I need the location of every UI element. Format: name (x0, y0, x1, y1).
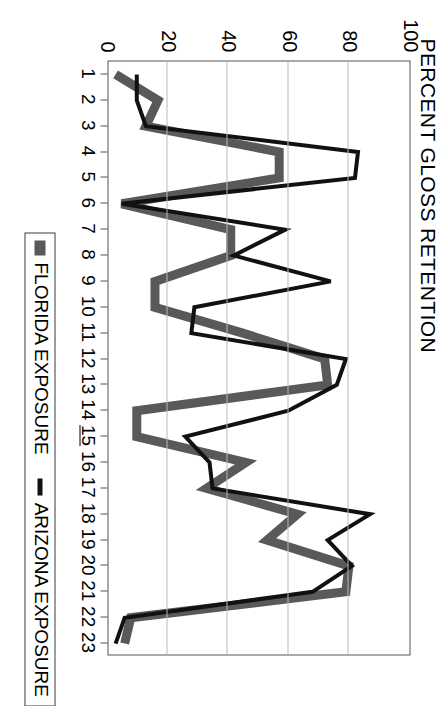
category-tick (100, 254, 107, 255)
series-line-florida (115, 74, 348, 643)
category-tick (100, 642, 107, 643)
value-axis-label: 60 (279, 8, 299, 52)
value-axis-label: 100 (400, 8, 420, 52)
category-tick (100, 358, 107, 359)
value-axis-label: 20 (158, 8, 178, 52)
category-tick (100, 513, 107, 514)
category-tick (100, 487, 107, 488)
florida-legend-swatch-icon (35, 240, 46, 255)
chart-legend: FLORIDA EXPOSURE ARIZONA EXPOSURE (24, 232, 55, 706)
gridline (226, 61, 227, 654)
category-tick (100, 280, 107, 281)
category-tick (100, 202, 107, 203)
value-axis-label: 0 (97, 8, 117, 52)
category-tick (100, 176, 107, 177)
category-tick (100, 228, 107, 229)
category-tick (100, 539, 107, 540)
category-tick (100, 99, 107, 100)
chart-title: PERCENT GLOSS RETENTION (415, 38, 439, 353)
category-tick (100, 616, 107, 617)
series-canvas (106, 61, 409, 656)
value-axis-label: 80 (339, 8, 359, 52)
category-tick (100, 409, 107, 410)
value-axis-label: 40 (218, 8, 238, 52)
category-tick (100, 73, 107, 74)
plot-area (107, 60, 410, 655)
category-tick (100, 125, 107, 126)
category-tick (100, 306, 107, 307)
category-tick (100, 383, 107, 384)
category-tick (100, 461, 107, 462)
arizona-legend-swatch-icon (38, 478, 43, 495)
category-tick (100, 590, 107, 591)
category-axis-label: 23 (78, 627, 97, 657)
category-tick (100, 151, 107, 152)
category-tick (100, 564, 107, 565)
category-tick (100, 435, 107, 436)
gridline (166, 61, 167, 654)
gridline (347, 61, 348, 654)
category-tick (100, 332, 107, 333)
arizona-legend-label: ARIZONA EXPOSURE (29, 502, 51, 696)
florida-legend-label: FLORIDA EXPOSURE (29, 262, 51, 454)
gridline (287, 61, 288, 654)
